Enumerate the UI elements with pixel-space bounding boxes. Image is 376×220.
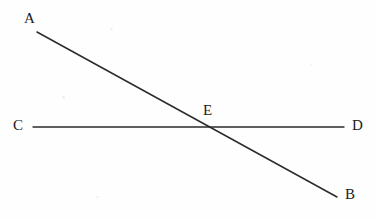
line-segment-ab: [37, 32, 337, 197]
geometry-figure: A B C D E: [0, 0, 376, 220]
point-label-b: B: [345, 187, 355, 202]
point-label-c: C: [13, 118, 23, 133]
point-label-a: A: [24, 11, 35, 26]
scan-speckle: [110, 28, 113, 30]
diagram-canvas: [0, 0, 376, 220]
scan-speckle: [96, 196, 99, 198]
scan-speckle: [310, 64, 312, 66]
point-label-d: D: [352, 118, 363, 133]
point-label-e: E: [203, 103, 212, 118]
scan-speckle: [62, 96, 65, 99]
